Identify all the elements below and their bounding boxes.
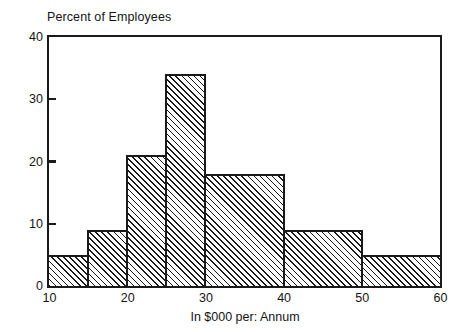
y-axis-label: 20 bbox=[29, 155, 43, 168]
y-axis-label: 40 bbox=[29, 31, 43, 44]
bar-step-edge bbox=[165, 74, 167, 286]
x-axis-label: 50 bbox=[355, 292, 369, 305]
plot-frame: 010203040 bbox=[47, 35, 442, 288]
x-axis-title: In $000 per: Annum bbox=[190, 310, 299, 324]
x-axis-label: 40 bbox=[277, 292, 291, 305]
bar-step-edge bbox=[126, 155, 128, 286]
bar-step-edge bbox=[204, 74, 206, 286]
x-axis-label: 30 bbox=[199, 292, 213, 305]
histogram-figure: Percent of Employees 010203040 In $000 p… bbox=[0, 0, 463, 332]
histogram-bar bbox=[49, 255, 88, 286]
y-axis-label: 10 bbox=[29, 218, 43, 231]
x-axis-label: 10 bbox=[43, 292, 57, 305]
x-axis-label: 20 bbox=[121, 292, 135, 305]
y-axis-tick bbox=[49, 160, 56, 162]
x-axis-label: 60 bbox=[434, 292, 448, 305]
y-axis-label: 30 bbox=[29, 93, 43, 106]
histogram-bar bbox=[166, 74, 205, 286]
histogram-bar bbox=[88, 230, 127, 286]
y-axis-tick bbox=[49, 98, 56, 100]
histogram-bar bbox=[362, 255, 440, 286]
histogram-bar bbox=[284, 230, 362, 286]
chart-title: Percent of Employees bbox=[47, 10, 171, 24]
histogram-bar bbox=[127, 155, 166, 286]
bar-step-edge bbox=[87, 230, 89, 286]
y-axis-tick bbox=[49, 223, 56, 225]
plot-area: 010203040 bbox=[49, 37, 440, 286]
histogram-bar bbox=[205, 174, 283, 286]
bar-step-edge bbox=[283, 174, 285, 286]
bar-step-edge bbox=[361, 230, 363, 286]
